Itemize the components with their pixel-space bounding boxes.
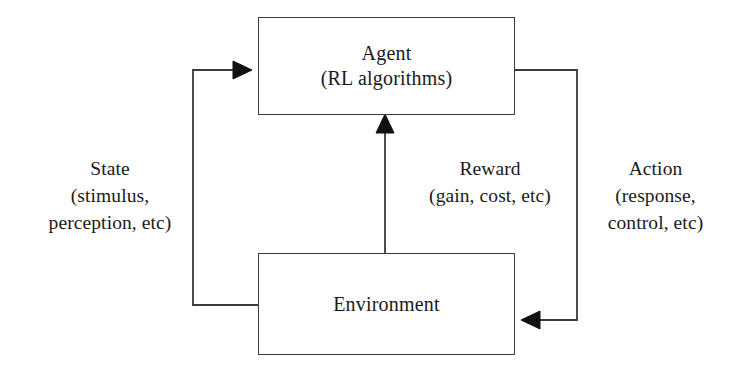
state-edge-label: State (stimulus, perception, etc): [20, 155, 200, 236]
state-edge-label-line-3: perception, etc): [20, 209, 200, 236]
reward-edge-label: Reward (gain, cost, etc): [400, 155, 580, 209]
agent-node-title: Agent: [362, 41, 412, 66]
reward-edge-label-line-1: Reward: [400, 155, 580, 182]
action-arrowhead: [521, 311, 540, 329]
action-edge-label-line-3: control, etc): [578, 209, 733, 236]
state-edge-label-line-2: (stimulus,: [20, 182, 200, 209]
agent-node[interactable]: Agent (RL algorithms): [258, 17, 515, 115]
reward-connector: [376, 114, 394, 253]
environment-node[interactable]: Environment: [258, 253, 515, 355]
action-edge-label: Action (response, control, etc): [578, 155, 733, 236]
agent-node-subtitle: (RL algorithms): [321, 66, 453, 91]
reward-edge-label-line-2: (gain, cost, etc): [400, 182, 580, 209]
state-arrowhead: [233, 61, 252, 79]
diagram-canvas: Agent (RL algorithms) Environment State …: [0, 0, 733, 376]
action-edge-label-line-1: Action: [578, 155, 733, 182]
environment-node-title: Environment: [333, 292, 440, 317]
state-edge-label-line-1: State: [20, 155, 200, 182]
action-edge-label-line-2: (response,: [578, 182, 733, 209]
reward-arrowhead: [376, 114, 394, 133]
state-connector: [193, 61, 258, 305]
